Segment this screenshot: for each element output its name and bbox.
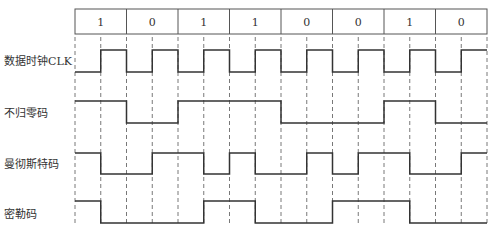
- bit-cell: 0: [149, 16, 156, 29]
- bit-cell: 0: [458, 16, 465, 29]
- bit-cell: 1: [252, 16, 259, 29]
- bit-cell: 0: [303, 16, 310, 29]
- bit-cell: 1: [97, 16, 104, 29]
- encoding-diagram: 10110010: [0, 0, 492, 233]
- nrz-waveform: [75, 101, 487, 123]
- clk-waveform: [75, 50, 487, 72]
- bit-cell: 1: [406, 16, 413, 29]
- bit-table-cells: 10110010: [97, 9, 465, 34]
- row-label-clk: 数据时钟CLK: [4, 52, 72, 68]
- bit-cell: 1: [200, 16, 207, 29]
- row-label-manchester: 曼彻斯特码: [4, 155, 59, 171]
- row-label-nrz: 不归零码: [4, 104, 48, 120]
- row-label-miller: 密勒码: [4, 205, 37, 221]
- bit-cell: 0: [355, 16, 362, 29]
